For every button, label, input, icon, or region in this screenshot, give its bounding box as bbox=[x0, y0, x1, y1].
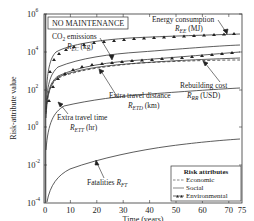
svg-text:102: 102 bbox=[27, 83, 39, 95]
legend-social-label: Social bbox=[186, 184, 204, 192]
label-extra-travel-time: Extra travel time bbox=[57, 113, 108, 122]
label-rrr: RRR (USD) bbox=[186, 91, 221, 101]
label-ree: REE (MJ) bbox=[174, 24, 203, 34]
svg-text:10-4: 10-4 bbox=[27, 196, 40, 208]
legend-economic-label: Economic bbox=[186, 176, 214, 184]
legend-environmental-label: Environmental bbox=[186, 192, 228, 200]
svg-text:75: 75 bbox=[238, 205, 247, 215]
legend: Risk attributes Economic Social Environm… bbox=[171, 166, 241, 201]
svg-text:10: 10 bbox=[66, 205, 75, 215]
label-retd: RETD (km) bbox=[127, 101, 160, 111]
label-rebuilding-cost: Rebuilding cost bbox=[180, 81, 228, 90]
label-rec: REC (kg) bbox=[66, 42, 93, 52]
svg-text:100: 100 bbox=[27, 120, 39, 132]
svg-text:10-2: 10-2 bbox=[27, 158, 40, 170]
svg-text:104: 104 bbox=[27, 45, 39, 57]
label-co2-emissions: CO2 emissions bbox=[52, 32, 97, 42]
svg-text:30: 30 bbox=[119, 205, 128, 215]
risk-attribute-chart: 106 104 102 100 10-2 10-4 0 10 20 30 40 … bbox=[0, 0, 254, 221]
y-axis-title: Risk-attribute value bbox=[9, 76, 18, 140]
x-axis-title: Time (years) bbox=[123, 215, 164, 221]
label-energy-consumption: Energy consumption bbox=[152, 15, 214, 24]
svg-text:60: 60 bbox=[198, 205, 207, 215]
arrow-ett-head bbox=[58, 102, 63, 107]
y-tick-labels: 106 104 102 100 10-2 10-4 bbox=[27, 7, 40, 208]
arrow-etd-head bbox=[99, 69, 104, 74]
arrow-rebuilding-head bbox=[203, 61, 208, 66]
arrow-co2-head bbox=[109, 55, 114, 60]
svg-text:70: 70 bbox=[225, 205, 234, 215]
label-extra-travel-distance: Extra travel distance bbox=[109, 91, 171, 100]
chart-title: NO MAINTENANCE bbox=[52, 19, 124, 28]
label-fatalities: Fatalities RFT bbox=[87, 178, 128, 188]
svg-text:50: 50 bbox=[172, 205, 181, 215]
svg-text:106: 106 bbox=[27, 7, 39, 19]
svg-text:20: 20 bbox=[93, 205, 102, 215]
arrow-rebuilding bbox=[205, 63, 220, 82]
label-rett: RETT (hr) bbox=[69, 123, 98, 133]
svg-text:40: 40 bbox=[145, 205, 154, 215]
svg-text:Risk attributes: Risk attributes bbox=[184, 168, 229, 176]
svg-text:0: 0 bbox=[43, 205, 47, 215]
x-tick-labels: 0 10 20 30 40 50 60 70 75 bbox=[43, 205, 246, 215]
